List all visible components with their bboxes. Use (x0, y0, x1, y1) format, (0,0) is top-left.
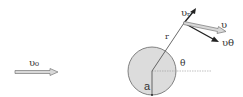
incoming-velocity-label: υ₀ (29, 58, 39, 68)
angle-label: θ (180, 59, 185, 68)
radius-vector-label: r (165, 33, 169, 41)
incoming-flow-arrow (15, 69, 58, 76)
velocity-label: υ (221, 20, 227, 30)
radial-velocity-label: υᵣ (181, 8, 191, 18)
sphere-radius-label: a (144, 81, 150, 92)
flow-diagram (0, 0, 243, 97)
velocity-arrow (184, 22, 227, 34)
tangential-velocity-label: υθ (222, 38, 234, 48)
